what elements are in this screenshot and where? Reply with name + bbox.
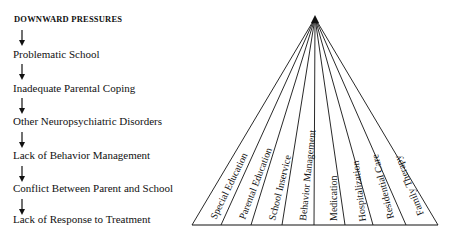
fan-segment-label: Residential Care xyxy=(369,153,396,221)
fan-segment-label: Family Therapy xyxy=(392,154,426,217)
fan-segment-label: Hospitalization xyxy=(350,160,368,222)
fan-segment-label: Medication xyxy=(328,175,339,221)
treatment-fan-diagram: Special Education Parental Education Sch… xyxy=(0,0,449,236)
